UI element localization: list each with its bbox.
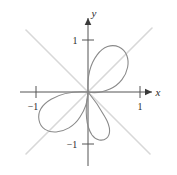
rose-curve-group xyxy=(39,46,128,141)
x-tick-label-positive-one: 1 xyxy=(138,101,143,112)
rose-petal-lower-right xyxy=(86,92,109,140)
guide-lines-group xyxy=(26,28,152,154)
y-tick-label-positive-one: 1 xyxy=(73,35,78,46)
y-axis-arrowhead xyxy=(85,18,92,25)
x-axis-label: x xyxy=(155,86,161,98)
y-axis-label: y xyxy=(91,7,97,19)
x-tick-label-negative-one: −1 xyxy=(28,101,39,112)
x-axis-arrowhead xyxy=(145,89,152,96)
y-tick-label-negative-one: −1 xyxy=(67,139,78,150)
diagonal-positive-slope-guide-line xyxy=(26,28,152,154)
rose-curve-figure: x y 1 −1 1 −1 xyxy=(0,0,177,175)
figure-canvas: x y 1 −1 1 −1 xyxy=(0,0,177,175)
rose-petal-lower-left xyxy=(39,92,88,132)
